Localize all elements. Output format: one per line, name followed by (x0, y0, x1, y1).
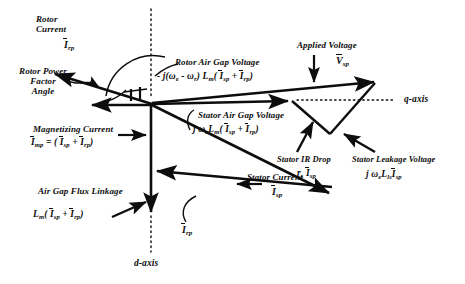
leader-air-gap-flux-linkage (112, 202, 146, 217)
phasor-diagram-figure: Rotor Current Irp Rotor Power Factor Ang… (0, 0, 465, 284)
applied-voltage-caption: Applied Voltage (297, 40, 357, 50)
stator-leakage-voltage-equation: j ωeLlsIsp (366, 169, 402, 180)
air-gap-flux-linkage-caption: Air Gap Flux Linkage (38, 186, 123, 196)
stator-air-gap-voltage-equation: j ωeLm( Isp + Irp) (193, 124, 259, 135)
rotor-air-gap-voltage-equation: - j(ωe - ωr) Lm( Isp + Irp) (157, 71, 253, 82)
air-gap-flux-linkage-equation: Lm( Isp + Irp) (33, 209, 84, 220)
leader-stator-ir-drop (297, 122, 313, 152)
vector-stator-leakage-voltage (330, 83, 375, 134)
magnetizing-current-equation: Imp = ( Isp + Irp) (31, 137, 93, 148)
rotor-power-factor-angle-label: Rotor Power Factor Angle (8, 66, 78, 96)
d-axis-label: d-axis (134, 258, 158, 269)
leader-stator-leakage-voltage (344, 134, 375, 152)
stator-leakage-voltage-caption: Stator Leakage Voltage (352, 155, 435, 165)
stator-current-caption: Stator Current (247, 172, 303, 182)
q-axis-label: q-axis (404, 94, 428, 105)
rotor-current-resultant-symbol: Irp (182, 224, 192, 238)
vector-stator-ir-drop (292, 101, 330, 134)
leader-rotor-current-resultant (183, 196, 196, 222)
rotor-current-symbol: Irp (64, 39, 74, 53)
rotor-air-gap-voltage-caption: Rotor Air Gap Voltage (175, 57, 260, 67)
magnetizing-current-caption: Magnetizing Current (33, 124, 113, 134)
stator-ir-drop-caption: Stator IR Drop (277, 155, 331, 165)
applied-voltage-symbol: Vsp (336, 55, 349, 69)
rotor-current-caption: Rotor Current (36, 14, 66, 34)
stator-current-symbol: Isp (272, 186, 282, 200)
stator-air-gap-voltage-caption: Stator Air Gap Voltage (198, 110, 284, 120)
